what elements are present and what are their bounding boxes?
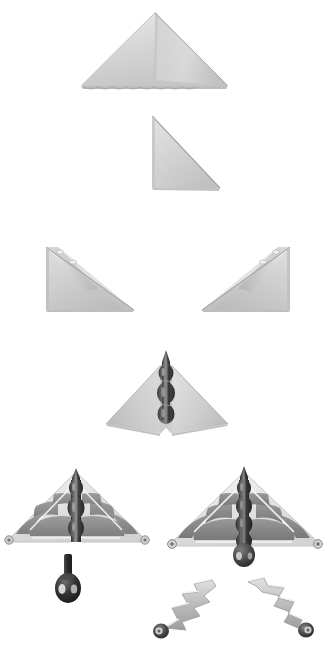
- part-right-triangle-blank: Right-triangle wing half blank: [146, 110, 228, 194]
- part-assembly-right: Assembled airframe, right - ribbed wing …: [162, 462, 330, 570]
- part-zigzag-strut-left: Zig-zag strut, left, with ball end: [150, 574, 246, 642]
- part-delta-wing-blank-large: Large isoceles delta wing blank: [70, 6, 238, 98]
- part-zigzag-strut-right: Zig-zag strut, right, with ball end: [240, 572, 336, 642]
- part-assembly-left: Assembled airframe, left - ribbed wing w…: [2, 464, 154, 556]
- part-ball-pod-with-stem: Dark ball pod with short stem: [48, 550, 88, 608]
- part-wing-half-left: Left wing half with ribbed root: [40, 240, 140, 318]
- part-delta-wing-with-fuselage-spine: Delta wing joined with segmented fuselag…: [100, 348, 236, 442]
- parts-plate: Large isoceles delta wing blank Right-tr…: [0, 0, 336, 662]
- part-wing-half-right: Right wing half with ribbed root: [196, 240, 296, 318]
